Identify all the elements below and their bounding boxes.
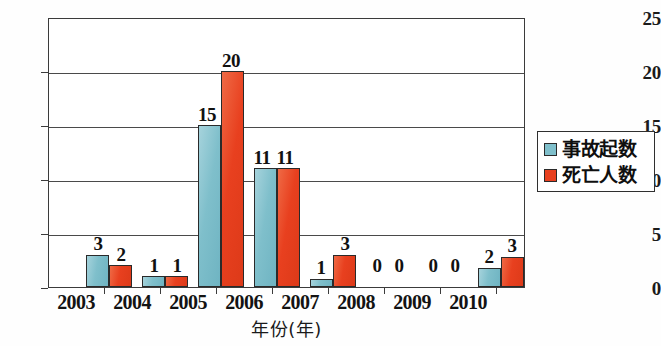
- bar-value-accidents-2005: 15: [190, 105, 224, 124]
- y-tick-label-0: 0: [621, 279, 661, 298]
- legend-swatch-icon-accidents: [544, 143, 557, 156]
- bar-value-deaths-2003: 2: [104, 245, 138, 264]
- bar-value-deaths-2009: 0: [438, 256, 472, 275]
- bar-accidents-2005[interactable]: [198, 125, 221, 287]
- y-tick-label-25: 25: [621, 9, 661, 28]
- bar-deaths-2003[interactable]: [109, 265, 132, 287]
- bar-group-2007: 1 3: [310, 19, 356, 287]
- bar-group-2006: 11 11: [254, 19, 300, 287]
- bar-value-deaths-2007: 3: [328, 234, 362, 253]
- legend-swatch-icon-deaths: [544, 169, 557, 182]
- legend: 事故起数 死亡人数: [537, 131, 655, 192]
- y-tick-mark-20: [41, 72, 48, 73]
- bar-deaths-2004[interactable]: [165, 276, 188, 287]
- bar-accidents-2006[interactable]: [254, 168, 277, 287]
- bar-group-2005: 15 20: [198, 19, 244, 287]
- legend-label-deaths: 死亡人数: [562, 166, 636, 185]
- y-tick-mark-0: [41, 288, 48, 289]
- bar-group-2010: 2 3: [478, 19, 524, 287]
- x-tick-label-2010: 2010: [432, 292, 504, 312]
- y-tick-mark-10: [41, 180, 48, 181]
- bar-value-deaths-2005: 20: [214, 51, 248, 70]
- x-axis-title: 年份(年): [48, 315, 525, 341]
- bar-group-2008: 0 0: [366, 19, 412, 287]
- bar-accidents-2010[interactable]: [478, 268, 501, 288]
- bar-group-2004: 1 1: [142, 19, 188, 287]
- bar-group-2009: 0 0: [422, 19, 468, 287]
- bar-value-deaths-2006: 11: [268, 148, 302, 167]
- y-tick-mark-15: [41, 126, 48, 127]
- legend-label-accidents: 事故起数: [562, 140, 636, 159]
- bar-chart: 25 20 15 10 5 0 3 2 1 1: [0, 0, 661, 346]
- bar-value-deaths-2008: 0: [382, 256, 416, 275]
- bar-value-deaths-2004: 1: [160, 256, 194, 275]
- bar-accidents-2004[interactable]: [142, 276, 165, 287]
- y-tick-label-5: 5: [621, 225, 661, 244]
- bar-deaths-2006[interactable]: [277, 168, 300, 287]
- bar-value-deaths-2010: 3: [495, 236, 529, 255]
- legend-item-accidents[interactable]: 事故起数: [544, 136, 649, 162]
- bar-accidents-2007[interactable]: [310, 279, 333, 287]
- plot-area: 3 2 1 1 15 20 11 11 1 3: [48, 18, 525, 288]
- legend-item-deaths[interactable]: 死亡人数: [544, 162, 649, 188]
- bar-value-accidents-2007: 1: [304, 258, 338, 277]
- y-tick-mark-5: [41, 234, 48, 235]
- bar-deaths-2005[interactable]: [221, 71, 244, 287]
- y-tick-label-20: 20: [621, 63, 661, 82]
- bar-group-2003: 3 2: [86, 19, 132, 287]
